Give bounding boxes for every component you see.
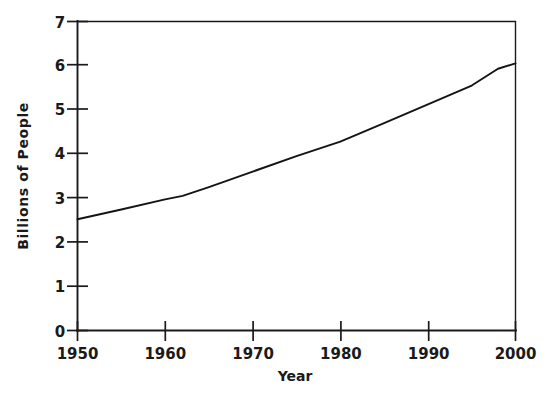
x-tick-label-2000: 2000 <box>495 345 537 363</box>
x-tick-label-1950: 1950 <box>57 345 99 363</box>
chart-canvas: 0 1 2 3 4 5 6 7 1950 1960 1970 1980 1990… <box>0 0 554 394</box>
y-tick-label-5: 5 <box>55 101 65 119</box>
y-tick-label-2: 2 <box>55 234 65 252</box>
y-tick-label-4: 4 <box>55 145 65 163</box>
y-tick-label-3: 3 <box>55 190 65 208</box>
population-line-chart-figure: 0 1 2 3 4 5 6 7 1950 1960 1970 1980 1990… <box>0 0 554 394</box>
data-series-world-population <box>78 63 516 219</box>
x-tick-labels: 1950 1960 1970 1980 1990 2000 <box>57 345 537 363</box>
x-tick-label-1980: 1980 <box>320 345 362 363</box>
y-tick-label-1: 1 <box>55 278 65 296</box>
y-tick-labels: 0 1 2 3 4 5 6 7 <box>55 14 65 341</box>
y-tick-label-0: 0 <box>55 323 65 341</box>
plot-frame <box>77 21 516 331</box>
y-tick-label-6: 6 <box>55 57 65 75</box>
x-tick-label-1990: 1990 <box>408 345 450 363</box>
x-tick-label-1960: 1960 <box>144 345 186 363</box>
x-tick-label-1970: 1970 <box>232 345 274 363</box>
y-axis-title: Billions of People <box>15 102 31 250</box>
y-tick-label-7: 7 <box>55 14 65 32</box>
x-axis-title: Year <box>277 368 313 384</box>
